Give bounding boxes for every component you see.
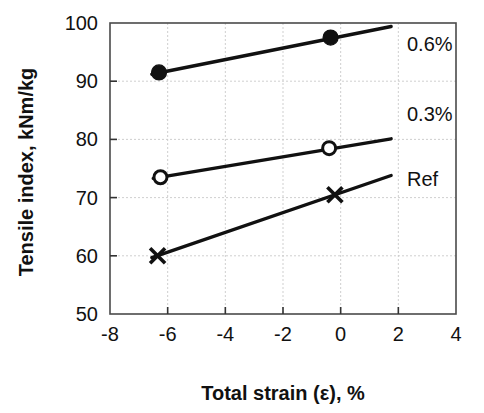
data-point-open-circle[interactable] (323, 142, 336, 155)
y-tick-label: 70 (76, 187, 98, 209)
x-axis-title: Total strain (ε), % (201, 382, 365, 404)
series-label-03: 0.3% (407, 103, 453, 125)
series-03 (153, 139, 391, 184)
series-group (150, 26, 391, 263)
series-Ref (150, 175, 391, 263)
y-tick-label: 50 (76, 303, 98, 325)
series-06 (152, 26, 392, 79)
x-tick-label: 0 (335, 323, 346, 345)
series-labels-group: 0.6%0.3%Ref (407, 33, 453, 190)
x-tick-label: -8 (101, 323, 119, 345)
y-tick-label: 100 (65, 12, 98, 34)
series-label-Ref: Ref (407, 168, 439, 190)
x-tick-label: -4 (216, 323, 234, 345)
x-tick-label: 4 (450, 323, 461, 345)
y-tick-label: 80 (76, 128, 98, 150)
x-tick-labels-group: -8-6-4-2024 (101, 323, 461, 345)
chart-figure: -8-6-4-2024 5060708090100 0.6%0.3%Ref To… (0, 0, 484, 413)
y-tick-label: 60 (76, 245, 98, 267)
data-point-filled-circle[interactable] (323, 30, 338, 45)
series-line (153, 139, 391, 179)
y-tick-label: 90 (76, 70, 98, 92)
x-tick-label: 2 (393, 323, 404, 345)
y-axis-title: Tensile index, kNm/kg (15, 68, 37, 277)
y-tick-labels-group: 5060708090100 (65, 12, 98, 325)
x-tick-label: -2 (274, 323, 292, 345)
data-point-open-circle[interactable] (154, 171, 167, 184)
chart-canvas: -8-6-4-2024 5060708090100 0.6%0.3%Ref To… (0, 0, 484, 413)
data-point-filled-circle[interactable] (152, 65, 167, 80)
x-tick-label: -6 (159, 323, 177, 345)
series-line (152, 26, 391, 74)
series-line (152, 175, 391, 257)
series-label-06: 0.6% (407, 33, 453, 55)
